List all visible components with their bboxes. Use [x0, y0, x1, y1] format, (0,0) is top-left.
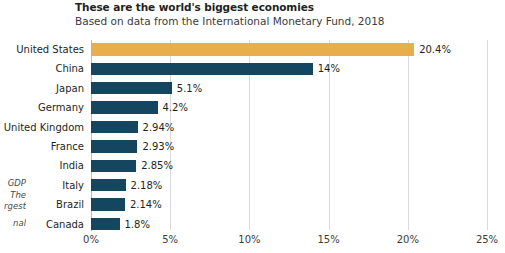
bar[interactable]: [91, 63, 313, 75]
category-label: Brazil: [0, 199, 84, 210]
bar[interactable]: [91, 121, 138, 133]
category-label: Italy: [0, 180, 84, 191]
category-label: Japan: [0, 83, 84, 94]
bar-value-label: 20.4%: [419, 44, 451, 55]
x-axis-tick-label: 5%: [162, 234, 178, 245]
gridline: [487, 40, 488, 230]
bar-value-label: 2.18%: [131, 180, 163, 191]
bar-row[interactable]: 2.93%France: [91, 137, 487, 156]
category-label: Germany: [0, 102, 84, 113]
bar-value-label: 2.93%: [142, 141, 174, 152]
bar-row[interactable]: 14%China: [91, 59, 487, 78]
x-axis-tick-label: 10%: [238, 234, 260, 245]
bar-row[interactable]: 20.4%United States: [91, 40, 487, 59]
x-axis-tick-label: 15%: [317, 234, 339, 245]
bar[interactable]: [91, 160, 136, 172]
bar-value-label: 5.1%: [177, 83, 202, 94]
category-label: United States: [0, 44, 84, 55]
bar-value-label: 14%: [318, 63, 340, 74]
bar-row[interactable]: 2.18%Italy: [91, 176, 487, 195]
bar-value-label: 4.2%: [163, 102, 188, 113]
bar-value-label: 2.85%: [141, 160, 173, 171]
x-axis-tick-label: 25%: [476, 234, 498, 245]
bar[interactable]: [91, 101, 158, 113]
bar-value-label: 2.14%: [130, 199, 162, 210]
category-label: China: [0, 63, 84, 74]
bar[interactable]: [91, 82, 172, 94]
category-label: France: [0, 141, 84, 152]
bar-value-label: 2.94%: [143, 122, 175, 133]
chart-subtitle: Based on data from the International Mon…: [75, 15, 385, 27]
bar-row[interactable]: 2.14%Brazil: [91, 195, 487, 214]
category-label: Canada: [0, 219, 84, 230]
x-axis-tick-label: 20%: [397, 234, 419, 245]
category-label: India: [0, 160, 84, 171]
bar-value-label: 1.8%: [125, 219, 150, 230]
bar[interactable]: [91, 198, 125, 210]
plot-area: 20.4%United States14%China5.1%Japan4.2%G…: [91, 40, 487, 230]
category-label: United Kingdom: [0, 122, 84, 133]
chart-root: These are the world's biggest economies …: [0, 0, 505, 253]
bar-row[interactable]: 2.94%United Kingdom: [91, 118, 487, 137]
chart-title: These are the world's biggest economies: [75, 1, 314, 13]
bar[interactable]: [91, 43, 414, 55]
bar[interactable]: [91, 140, 137, 152]
bar-row[interactable]: 2.85%India: [91, 156, 487, 175]
bar-row[interactable]: 1.8%Canada: [91, 215, 487, 234]
bar[interactable]: [91, 218, 120, 230]
bar-row[interactable]: 5.1%Japan: [91, 79, 487, 98]
bar-row[interactable]: 4.2%Germany: [91, 98, 487, 117]
x-axis-tick-label: 0%: [83, 234, 99, 245]
bar[interactable]: [91, 179, 126, 191]
